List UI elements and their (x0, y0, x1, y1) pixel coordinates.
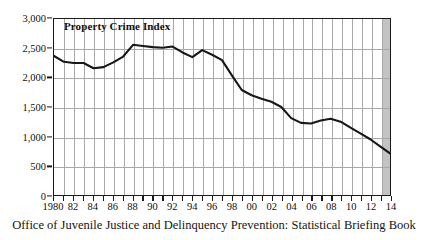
x-axis-tick-mark (242, 196, 243, 201)
x-axis-tick-mark (262, 196, 263, 201)
x-axis-tick-mark (391, 196, 392, 201)
x-axis-tick-label: 92 (167, 201, 178, 212)
x-axis-tick-mark (123, 196, 124, 201)
x-axis-tick-label: 98 (227, 201, 238, 212)
x-axis-tick-mark (222, 196, 223, 201)
x-axis-tick-mark (282, 196, 283, 201)
x-axis-tick-label: 88 (127, 201, 138, 212)
x-axis-tick-mark (73, 196, 74, 201)
x-axis-tick-mark (172, 196, 173, 201)
x-axis-tick-mark (182, 196, 183, 201)
x-axis-tick-mark (361, 196, 362, 201)
x-axis-tick-mark (252, 196, 253, 201)
x-axis-tick-label: 10 (346, 201, 357, 212)
x-axis-tick-mark (133, 196, 134, 201)
x-axis-tick-mark (331, 196, 332, 201)
x-axis-tick-label: 12 (366, 201, 377, 212)
x-axis-tick-mark (302, 196, 303, 201)
x-axis-tick-mark (113, 196, 114, 201)
x-axis-tick-label: 90 (147, 201, 158, 212)
x-axis-tick-label: 1980 (43, 201, 64, 212)
x-axis-tick-label: 08 (326, 201, 337, 212)
x-axis-tick-label: 82 (68, 201, 79, 212)
x-axis-tick-label: 06 (306, 201, 317, 212)
x-axis-tick-mark (53, 196, 54, 201)
x-axis-tick-mark (371, 196, 372, 201)
x-axis-tick-mark (202, 196, 203, 201)
x-axis-ticks: 19808284868890929496980002040608101214 (0, 0, 428, 240)
x-axis-tick-label: 94 (187, 201, 198, 212)
x-axis-tick-mark (292, 196, 293, 201)
x-axis-tick-label: 96 (207, 201, 218, 212)
x-axis-tick-mark (381, 196, 382, 201)
x-axis-tick-label: 04 (286, 201, 297, 212)
x-axis-tick-mark (232, 196, 233, 201)
x-axis-tick-mark (93, 196, 94, 201)
x-axis-tick-mark (162, 196, 163, 201)
x-axis-tick-label: 84 (88, 201, 99, 212)
x-axis-tick-mark (341, 196, 342, 201)
x-axis-tick-mark (272, 196, 273, 201)
x-axis-tick-label: 86 (107, 201, 118, 212)
x-axis-tick-mark (311, 196, 312, 201)
source-note: Office of Juvenile Justice and Delinquen… (0, 218, 428, 233)
x-axis-tick-mark (212, 196, 213, 201)
x-axis-tick-mark (83, 196, 84, 201)
x-axis-tick-mark (152, 196, 153, 201)
x-axis-tick-label: 00 (247, 201, 258, 212)
x-axis-tick-mark (103, 196, 104, 201)
x-axis-tick-mark (142, 196, 143, 201)
x-axis-tick-mark (351, 196, 352, 201)
x-axis-tick-label: 02 (266, 201, 277, 212)
chart-figure: 05001,0001,5002,0002,5003,000 Property C… (0, 0, 428, 240)
x-axis-tick-mark (192, 196, 193, 201)
x-axis-tick-label: 14 (386, 201, 397, 212)
x-axis-tick-mark (63, 196, 64, 201)
x-axis-tick-mark (321, 196, 322, 201)
